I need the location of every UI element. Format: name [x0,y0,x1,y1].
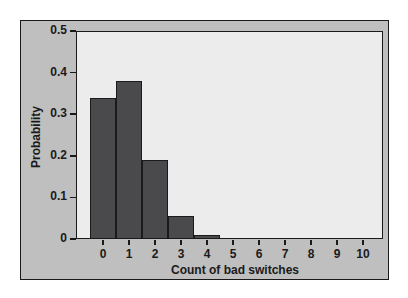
y-tick-label: 0 [37,232,67,244]
bar-3 [168,216,194,239]
x-tick-label: 9 [325,248,349,260]
x-axis-title: Count of bad switches [100,263,370,277]
x-tick-label: 8 [299,248,323,260]
x-tick [284,240,286,245]
y-tick [70,30,76,32]
x-tick [258,240,260,245]
y-tick [70,113,76,115]
y-tick-label: 0.1 [37,190,67,202]
x-tick-label: 5 [221,248,245,260]
y-tick [70,197,76,199]
y-tick-label: 0.4 [37,66,67,78]
y-tick [70,155,76,157]
bar-1 [116,81,142,239]
x-tick [180,240,182,245]
y-tick-label: 0.5 [37,24,67,36]
x-tick-label: 7 [273,248,297,260]
y-tick [70,238,76,240]
x-tick-label: 0 [91,248,115,260]
x-tick [128,240,130,245]
x-tick-label: 4 [195,248,219,260]
bar-4 [194,235,220,239]
x-tick-label: 2 [143,248,167,260]
x-tick-label: 3 [169,248,193,260]
x-tick-label: 6 [247,248,271,260]
x-tick [102,240,104,245]
y-axis-title: Probability [29,106,43,168]
y-tick [70,72,76,74]
x-tick [154,240,156,245]
x-tick-label: 10 [351,248,375,260]
bar-0 [90,98,116,239]
bar-2 [142,160,168,239]
x-tick [336,240,338,245]
x-tick [206,240,208,245]
x-tick [310,240,312,245]
x-tick [362,240,364,245]
x-tick-label: 1 [117,248,141,260]
x-tick [232,240,234,245]
